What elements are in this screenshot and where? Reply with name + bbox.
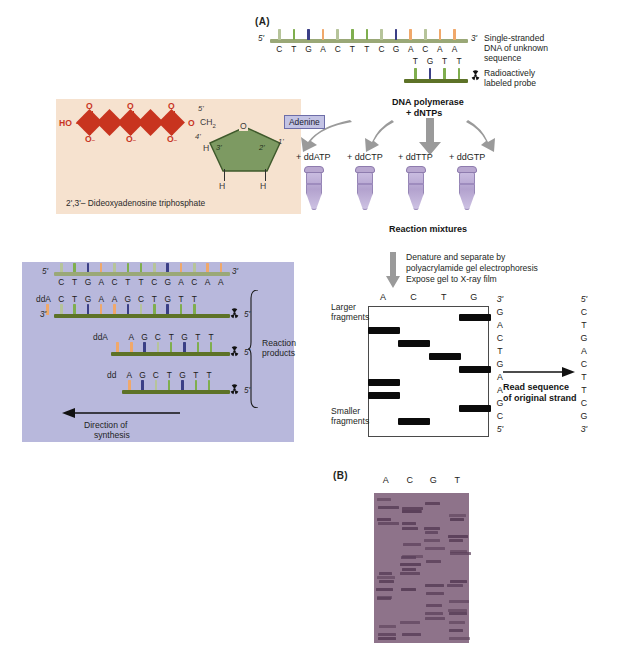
base-letter-g: G (137, 370, 148, 380)
ddntp-caption: 2',3'– Dideoxyadenosine triphosphate (66, 198, 205, 208)
tube-liquid-line (408, 183, 424, 185)
hydrogen-4prime: H (203, 143, 209, 153)
tube-cap (304, 166, 324, 173)
gel-band-G-4 (459, 366, 491, 373)
base-tick-a (322, 29, 325, 40)
base-letter-a: A (449, 44, 460, 54)
base-tick-a (100, 263, 103, 272)
carbon-1-prime: 1' (278, 137, 284, 146)
product-1-terminator: ddA (36, 294, 51, 304)
base-tick-t (414, 68, 417, 79)
base-letter-c: C (332, 44, 343, 54)
gel-lane-header-T: T (437, 292, 451, 302)
autoradiogram-band (426, 604, 442, 607)
autoradiogram-band (401, 556, 416, 559)
larger-fragments-label-1: Larger (331, 302, 356, 312)
hydrogen-3prime: H (219, 181, 225, 191)
autoradiogram-band (424, 527, 440, 530)
o-minus-2: O– (126, 134, 136, 144)
base-letter-g: G (391, 44, 402, 54)
autoradiogram-band (426, 592, 444, 595)
base-tick-g (166, 263, 169, 272)
base-letter-c: C (376, 44, 387, 54)
autoradiogram-band (400, 572, 420, 575)
electrophoresis-line1: Denature and separate by (406, 252, 505, 262)
base-letter-g: G (122, 294, 133, 304)
base-letter-t: T (166, 332, 177, 342)
autoradiogram-band (378, 506, 399, 509)
base-letter-a: A (405, 44, 416, 54)
gel-band-A-1 (368, 327, 400, 334)
electrophoresis-arrow (386, 252, 400, 288)
read-sequence-label-1: Read sequence (503, 382, 569, 393)
reaction-product-1: ddA CTGAAGCTGTT 3' 5' (22, 294, 257, 320)
reaction-products-label-2: products (262, 348, 295, 358)
base-letter-a: A (176, 277, 187, 287)
autoradiogram-band (425, 531, 438, 534)
autoradiogram-band (450, 580, 467, 583)
gel-band-G-0 (459, 314, 491, 321)
synthesis-direction-line1: Direction of (84, 420, 127, 430)
panel-b-label: (B) (333, 470, 348, 481)
polymerase-fanout-arrows (300, 118, 530, 154)
base-letter-t: T (189, 294, 200, 304)
orig-seq-letter-0: C (578, 307, 590, 317)
read-seq-letter-1: A (494, 320, 506, 330)
tube-body (357, 172, 373, 210)
radioactive-trefoil-icon (229, 384, 240, 395)
autoradiogram-band (450, 552, 471, 555)
autoradiogram-band (379, 580, 395, 583)
base-letter-t: T (69, 277, 80, 287)
base-letter-t: T (347, 44, 358, 54)
base-letter-t: T (149, 294, 160, 304)
synthesis-direction-line2: synthesis (94, 430, 130, 440)
base-letter-a: A (202, 277, 213, 287)
read-seq-letter-2: C (494, 333, 506, 343)
base-letter-t: T (439, 56, 450, 66)
autoradiogram-band (402, 568, 416, 571)
base-tick-a (439, 29, 442, 40)
template-five-prime: 5' (258, 34, 264, 43)
tube-label-3: + ddGTP (449, 152, 485, 162)
base-tick-t (458, 68, 461, 79)
autoradiogram-band (450, 518, 464, 521)
autoradiogram-band (426, 560, 442, 563)
autoradiogram-band (424, 539, 440, 542)
rx-template-backbone (54, 272, 230, 276)
reaction-tube-1 (355, 166, 375, 210)
gel-lane-header-C: C (406, 292, 420, 302)
product-2-terminator: ddA (93, 332, 108, 342)
autoradiogram-band (400, 563, 420, 566)
autoradiogram-band (447, 584, 463, 587)
read-sequence-label-2: of original strand (503, 393, 577, 404)
base-tick-g (307, 29, 310, 40)
ring-oxygen: O (239, 121, 248, 131)
gel-band-G-7 (459, 405, 491, 412)
base-tick-a (206, 263, 209, 272)
base-letter-c: C (56, 277, 67, 287)
template-caption-3: sequence (484, 53, 521, 63)
tube-label-0: + ddATP (296, 152, 331, 162)
orig-seq-letter-7: C (578, 398, 590, 408)
base-letter-t: T (288, 44, 299, 54)
read-seq-letter-8: C (494, 411, 506, 421)
reaction-tube-0 (304, 166, 324, 210)
reaction-mixtures-caption: Reaction mixtures (389, 224, 467, 235)
template-caption-2: DNA of unknown (484, 43, 548, 53)
base-tick-t (127, 263, 130, 272)
base-letter-a: A (96, 277, 107, 287)
autoradiogram-lane-header-A: A (379, 475, 393, 485)
ddntp-structure-panel: HO – P – O – P – O – P – O O O O O– O– O… (56, 99, 301, 214)
orig-seq-letter-3: A (578, 346, 590, 356)
base-letter-c: C (109, 277, 120, 287)
orig-seq-top-prime: 5' (578, 294, 590, 304)
autoradiogram-band (378, 637, 396, 640)
autoradiogram-band (377, 576, 396, 579)
base-tick-g (429, 68, 432, 79)
probe-strand: TGTT (404, 62, 470, 88)
read-seq-letter-3: T (494, 346, 506, 356)
read-sequence-arrow (503, 367, 575, 377)
deoxyribose-ring (202, 125, 288, 177)
gel-lane-header-G: G (467, 292, 481, 302)
base-letter-g: G (424, 56, 435, 66)
